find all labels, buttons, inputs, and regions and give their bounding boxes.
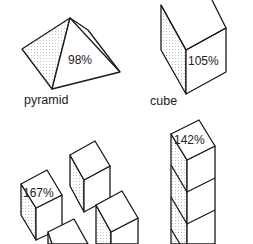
scattered-cubes-shape: 167% (21, 141, 138, 244)
cube-percent: 105% (188, 54, 219, 68)
stacked-cubes-shape: 142% (171, 120, 215, 244)
scattered-percent: 167% (23, 186, 54, 200)
pyramid-label: pyramid (24, 93, 69, 107)
shapes-diagram: 98% pyramid 105% cube (0, 0, 253, 244)
stacked-percent: 142% (174, 133, 205, 147)
cube-label: cube (150, 94, 177, 108)
cube-shape: 105% cube (150, 0, 226, 108)
pyramid-shape: 98% pyramid (22, 18, 120, 107)
pyramid-percent: 98% (68, 53, 92, 67)
